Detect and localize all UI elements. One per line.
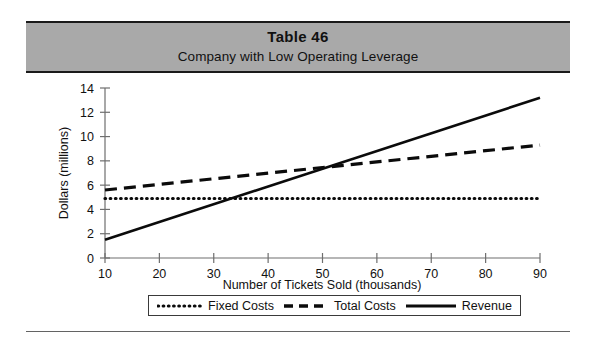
legend-item-revenue: Revenue [405, 299, 512, 313]
solid-line-swatch-icon [405, 301, 457, 311]
x-tick-label: 30 [207, 267, 221, 281]
legend-label-fixed-costs: Fixed Costs [208, 299, 274, 313]
legend-item-fixed-costs: Fixed Costs [157, 299, 274, 313]
series-line-revenue [105, 98, 540, 240]
chart-legend: Fixed Costs Total Costs Revenue [148, 295, 521, 316]
legend-label-total-costs: Total Costs [334, 299, 396, 313]
table-subtitle: Company with Low Operating Leverage [178, 47, 419, 67]
y-tick-label: 2 [87, 227, 94, 241]
x-tick-label: 10 [98, 267, 112, 281]
y-tick-label: 4 [87, 203, 94, 217]
bottom-divider [26, 331, 570, 332]
y-axis-title: Dollars (millions) [57, 127, 71, 219]
y-tick-label: 6 [87, 179, 94, 193]
y-tick-label: 8 [87, 154, 94, 168]
table-header-banner: Table 46 Company with Low Operating Leve… [26, 21, 570, 73]
figure-page: Table 46 Company with Low Operating Leve… [0, 0, 596, 347]
line-chart: 02468101214 102030405060708090 Dollars (… [0, 74, 596, 324]
x-tick-label: 80 [479, 267, 493, 281]
y-tick-label: 0 [87, 252, 94, 266]
legend-item-total-costs: Total Costs [283, 299, 396, 313]
legend-label-revenue: Revenue [462, 299, 512, 313]
y-tick-label: 10 [80, 130, 94, 144]
y-axis-tick-labels: 02468101214 [80, 82, 94, 266]
y-tick-label: 14 [80, 82, 94, 96]
x-tick-label: 20 [152, 267, 166, 281]
x-tick-label: 70 [424, 267, 438, 281]
dashed-line-swatch-icon [283, 301, 329, 311]
table-title: Table 46 [267, 27, 328, 47]
x-axis-title: Number of Tickets Sold (thousands) [223, 278, 422, 292]
x-tick-label: 90 [533, 267, 547, 281]
y-tick-label: 12 [80, 106, 94, 120]
dotted-line-swatch-icon [157, 301, 203, 311]
chart-container: 02468101214 102030405060708090 Dollars (… [0, 74, 596, 324]
